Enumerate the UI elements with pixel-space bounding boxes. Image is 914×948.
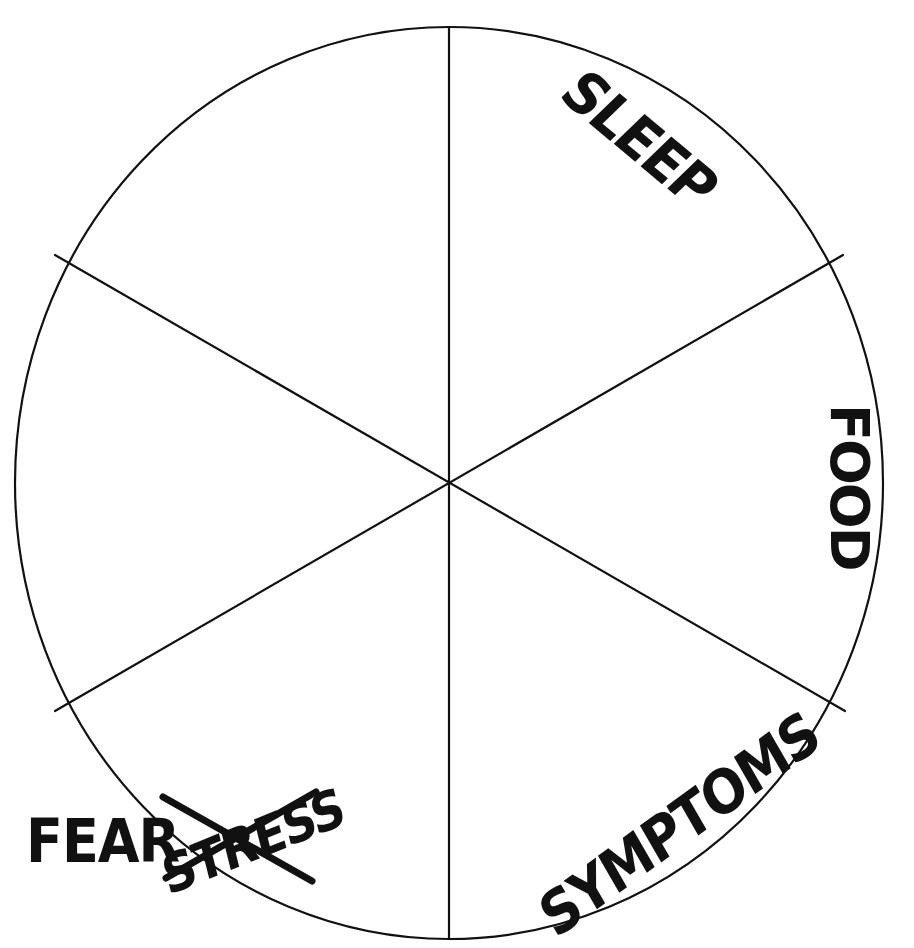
annotation-label-fear: FEAR (26, 812, 179, 872)
worksheet-canvas: SLEEP FOOD SYMPTOMS FEAR STRESS (0, 0, 914, 948)
segment-label-food: FOOD (822, 404, 876, 570)
